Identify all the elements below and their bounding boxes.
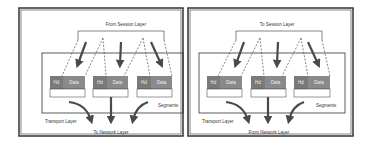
data-label: Data [69, 80, 79, 85]
input-arrows [226, 97, 304, 120]
segmentation-diagram: From Session Layer Hd Data [0, 0, 370, 148]
data-label: Data [226, 80, 236, 85]
bottom-label: To Network Layer [93, 130, 129, 135]
output-arrows [69, 97, 148, 120]
segments-label: Segments [316, 103, 337, 108]
segment-2: Hd Data [93, 76, 128, 97]
panel-outer-border [188, 8, 353, 136]
segment-3: Hd Data [137, 76, 172, 97]
header-label: Hd [255, 80, 261, 85]
panel-inner-border [190, 10, 351, 134]
data-label: Data [271, 80, 281, 85]
header-label: Hd [298, 80, 304, 85]
segment-3: Hd Data [294, 76, 330, 97]
receiver-panel: To Session Layer Hd Data Hd [188, 8, 353, 136]
session-bracket [78, 31, 164, 40]
top-label: From Session Layer [106, 22, 147, 27]
session-bracket [236, 31, 322, 40]
segment-1: Hd Data [207, 76, 242, 97]
segment-1: Hd Data [50, 76, 85, 97]
panel-outer-border [19, 8, 183, 136]
data-label: Data [314, 80, 324, 85]
data-label: Data [113, 80, 123, 85]
data-label: Data [157, 80, 167, 85]
sender-panel: From Session Layer Hd Data [19, 8, 183, 136]
transport-layer-label: Transport Layer [202, 119, 234, 124]
merge-dashes [218, 38, 330, 76]
header-label: Hd [211, 80, 217, 85]
header-label: Hd [54, 80, 60, 85]
header-label: Hd [97, 80, 103, 85]
split-dashes [62, 38, 172, 76]
segments-label: Segments [158, 103, 179, 108]
header-label: Hd [141, 80, 147, 85]
bottom-label: From Network Layer [249, 130, 290, 135]
transport-layer-label: Transport Layer [45, 119, 77, 124]
top-label: To Session Layer [260, 22, 295, 27]
segment-2: Hd Data [251, 76, 286, 97]
panel-inner-border [21, 10, 181, 134]
